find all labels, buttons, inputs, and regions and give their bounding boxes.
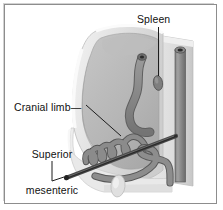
- anatomical-figure: Spleen Cranial limb— Superior mesenteric…: [0, 0, 223, 210]
- label-sma-line-1: Superior: [17, 148, 87, 160]
- label-superior-mesenteric-artery: Superior mesenteric artery: [17, 124, 87, 210]
- label-sma-line-2: mesenteric: [17, 184, 87, 196]
- label-cranial-limb: Cranial limb—: [14, 101, 81, 113]
- vertical-great-vessel: [175, 47, 186, 182]
- label-spleen: Spleen: [137, 13, 170, 25]
